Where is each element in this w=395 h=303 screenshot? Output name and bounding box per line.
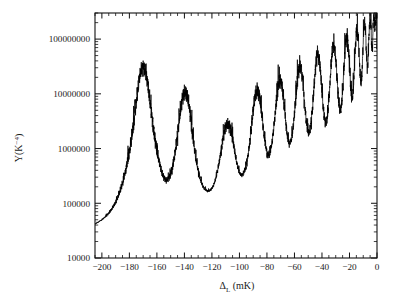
svg-text:Y(K−4): Y(K−4): [13, 134, 26, 163]
x-tick-label: −60: [287, 262, 302, 272]
x-tick-label: −100: [230, 262, 249, 272]
x-tick-label: −200: [92, 262, 111, 272]
y-tick-label: 100000: [62, 199, 90, 209]
x-tick-label: −120: [202, 262, 221, 272]
x-tick-label: −20: [342, 262, 357, 272]
chart-figure: 10000100000100000010000000100000000 −200…: [0, 0, 395, 303]
x-tick-label: 0: [375, 262, 380, 272]
x-tick-label: −140: [175, 262, 194, 272]
log-plot-svg: 10000100000100000010000000100000000 −200…: [0, 0, 395, 303]
y-tick-label: 1000000: [58, 144, 91, 154]
x-tick-label: −160: [147, 262, 166, 272]
x-tick-label: −80: [260, 262, 275, 272]
x-tick-label: −40: [315, 262, 330, 272]
y-axis-title: Y(K−4): [13, 134, 26, 163]
y-tick-label: 100000000: [49, 34, 91, 44]
y-tick-label: 10000000: [53, 89, 90, 99]
y-tick-label: 10000: [67, 253, 90, 263]
x-tick-label: −180: [120, 262, 139, 272]
